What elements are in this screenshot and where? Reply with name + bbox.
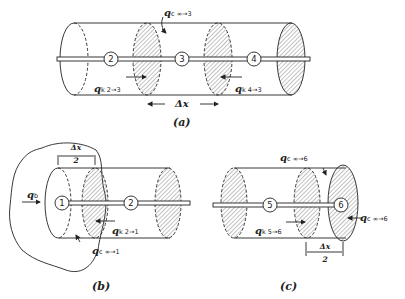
label-dx-num-b: Δx xyxy=(66,144,86,152)
label-dx-den-b: 2 xyxy=(66,157,86,165)
label-qk-2-3: qk 2→3 xyxy=(94,84,121,94)
caption-b: (b) xyxy=(92,281,110,292)
node-label-6: 6 xyxy=(334,201,348,210)
label-qc-inf-6-side: qc ∞→6 xyxy=(280,153,308,163)
fin-node-diagram xyxy=(0,0,405,299)
node-label-2b: 2 xyxy=(124,199,138,208)
label-dx-num-c: Δx xyxy=(315,243,335,251)
label-qk-2-1: qk 2→1 xyxy=(112,226,139,236)
caption-a: (a) xyxy=(173,117,191,128)
label-delta-x: Δx xyxy=(175,99,189,109)
node-label-2: 2 xyxy=(104,55,118,64)
label-qc-inf-6-end: qc ∞→6 xyxy=(360,213,388,223)
label-qk-5-6: qk 5→6 xyxy=(255,226,282,236)
node-label-1: 1 xyxy=(55,199,69,208)
label-qc-inf-1: qc ∞→1 xyxy=(92,246,120,256)
node-label-3: 3 xyxy=(175,55,189,64)
label-qb: qb xyxy=(27,190,38,200)
label-qc-inf-3: qc ∞→3 xyxy=(164,8,192,18)
node-label-5: 5 xyxy=(263,201,277,210)
node-label-4: 4 xyxy=(247,55,261,64)
caption-c: (c) xyxy=(280,281,297,292)
label-dx-den-c: 2 xyxy=(315,256,335,264)
label-qk-4-3: qk 4→3 xyxy=(235,84,262,94)
